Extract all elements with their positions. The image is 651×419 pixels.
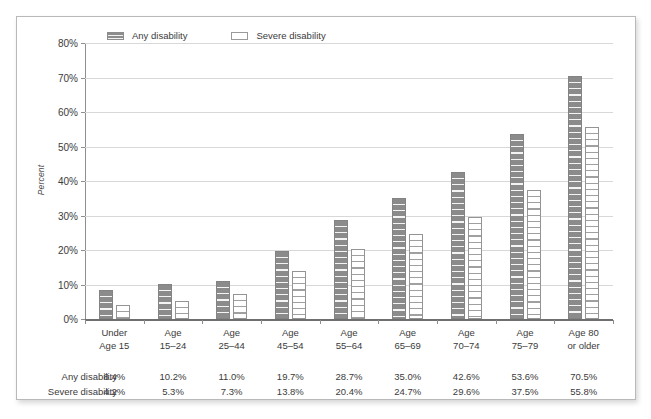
y-axis-tick-label: 0% (64, 314, 78, 325)
y-axis-tick-mark (81, 216, 85, 217)
category-label-line: Under (83, 327, 145, 340)
bar-any-disability[interactable] (568, 76, 582, 319)
table-cell: 70.5% (553, 369, 615, 384)
category-label-line: 25–44 (201, 340, 263, 353)
x-axis-tick-mark (144, 320, 145, 324)
bar-group (392, 43, 423, 319)
x-axis-tick-mark (85, 320, 86, 324)
category-label-line: 55–64 (318, 340, 380, 353)
table-cell: 53.6% (494, 369, 556, 384)
category-label-line: Age (377, 327, 439, 340)
bar-severe-disability[interactable] (292, 271, 306, 319)
bar-severe-disability[interactable] (468, 217, 482, 319)
bar-severe-disability[interactable] (233, 294, 247, 319)
table-cell: 20.4% (318, 384, 380, 399)
figure-frame: Any disability Severe disability Percent… (16, 16, 636, 400)
y-axis-tick-label: 80% (58, 38, 78, 49)
x-axis-category-label: Age 80or older (553, 327, 615, 352)
y-axis-tick-label: 30% (58, 210, 78, 221)
y-axis-tick-label: 70% (58, 72, 78, 83)
x-axis-category-label: Age45–54 (259, 327, 321, 352)
table-cell: 24.7% (377, 384, 439, 399)
table-cell: 4.2% (83, 384, 145, 399)
y-axis-tick-mark (81, 250, 85, 251)
category-label-line: Age 80 (553, 327, 615, 340)
bar-severe-disability[interactable] (527, 190, 541, 319)
category-label-line: Age (435, 327, 497, 340)
y-axis-tick-mark (81, 43, 85, 44)
bar-any-disability[interactable] (392, 198, 406, 319)
category-label-line: Age 15 (83, 340, 145, 353)
table-cell: 7.3% (201, 384, 263, 399)
category-label-line: or older (553, 340, 615, 353)
table-cell: 42.6% (435, 369, 497, 384)
table-cell: 10.2% (142, 369, 204, 384)
x-axis-category-label: Age65–69 (377, 327, 439, 352)
x-axis-category-label: Age25–44 (201, 327, 263, 352)
x-axis-tick-mark (202, 320, 203, 324)
bar-group (510, 43, 541, 319)
category-label-line: Age (494, 327, 556, 340)
y-axis-tick-label: 50% (58, 141, 78, 152)
x-axis-tick-mark (437, 320, 438, 324)
category-label-line: 45–54 (259, 340, 321, 353)
table-cell: 8.4% (83, 369, 145, 384)
plot-wrapper: Percent 0%10%20%30%40%50%60%70%80% Under… (17, 17, 637, 401)
y-axis-tick-label: 20% (58, 245, 78, 256)
table-cell: 11.0% (201, 369, 263, 384)
table-row: Any disability8.4%10.2%11.0%19.7%28.7%35… (17, 369, 637, 384)
table-row: Severe disability4.2%5.3%7.3%13.8%20.4%2… (17, 384, 637, 399)
x-axis-tick-mark (261, 320, 262, 324)
y-axis-tick-mark (81, 181, 85, 182)
bar-any-disability[interactable] (216, 281, 230, 319)
table-cell: 28.7% (318, 369, 380, 384)
x-axis-category-label: Age70–74 (435, 327, 497, 352)
bar-severe-disability[interactable] (585, 127, 599, 320)
bar-severe-disability[interactable] (116, 305, 130, 319)
y-axis-tick-label: 10% (58, 279, 78, 290)
bar-group (99, 43, 130, 319)
category-label-line: 65–69 (377, 340, 439, 353)
x-axis-tick-mark (320, 320, 321, 324)
category-label-line: 70–74 (435, 340, 497, 353)
category-label-line: 15–24 (142, 340, 204, 353)
bar-group (158, 43, 189, 319)
category-label-line: 75–79 (494, 340, 556, 353)
y-axis-tick-label: 40% (58, 176, 78, 187)
x-axis-category-label: UnderAge 15 (83, 327, 145, 352)
y-axis-tick-mark (81, 147, 85, 148)
category-label-line: Age (318, 327, 380, 340)
y-axis-tick-mark (81, 112, 85, 113)
x-axis-category-label: Age15–24 (142, 327, 204, 352)
bar-any-disability[interactable] (334, 220, 348, 319)
category-label-line: Age (142, 327, 204, 340)
bar-any-disability[interactable] (275, 251, 289, 319)
table-cell: 13.8% (259, 384, 321, 399)
plot-area: 0%10%20%30%40%50%60%70%80% (85, 43, 613, 319)
y-axis-tick-mark (81, 285, 85, 286)
table-cell: 55.8% (553, 384, 615, 399)
bar-severe-disability[interactable] (409, 234, 423, 319)
x-axis-tick-mark (378, 320, 379, 324)
table-cell: 19.7% (259, 369, 321, 384)
bar-any-disability[interactable] (158, 284, 172, 319)
y-axis-tick-label: 60% (58, 107, 78, 118)
bar-group (568, 43, 599, 319)
bar-group (334, 43, 365, 319)
table-cell: 5.3% (142, 384, 204, 399)
table-cell: 35.0% (377, 369, 439, 384)
bar-severe-disability[interactable] (351, 249, 365, 319)
bar-any-disability[interactable] (99, 290, 113, 319)
bar-group (216, 43, 247, 319)
bar-any-disability[interactable] (510, 134, 524, 319)
data-table: Any disability8.4%10.2%11.0%19.7%28.7%35… (17, 369, 637, 399)
category-label-line: Age (259, 327, 321, 340)
x-axis-tick-mark (554, 320, 555, 324)
bar-any-disability[interactable] (451, 172, 465, 319)
bar-group (451, 43, 482, 319)
x-axis-category-label: Age75–79 (494, 327, 556, 352)
y-axis-tick-mark (81, 78, 85, 79)
category-label-line: Age (201, 327, 263, 340)
y-axis-title: Percent (36, 150, 46, 210)
bar-severe-disability[interactable] (175, 301, 189, 319)
